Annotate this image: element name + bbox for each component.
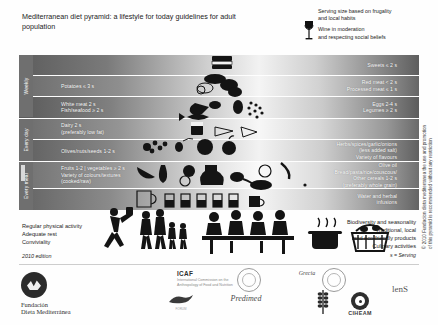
fundacion-dieta-mediterranea-icon [21, 272, 47, 298]
band-fruitveg-right: Olive oil Bread/pasta/rice/couscous/ Oth… [334, 162, 397, 188]
frequency-tabs: Weekly Every day Every meal [19, 55, 33, 210]
serving-key: s = Serving [390, 252, 416, 258]
band-meat: Potatoes ≤ 3 s Red meat < 2 s Processed … [19, 76, 419, 96]
edition-label: 2010 edition [22, 253, 51, 259]
band-protein-left: White meat 2 s Fish/seafood ≥ 2 s [61, 101, 103, 114]
band-protein-right: Eggs 2-4 s Legumes ≥ 2 s [363, 101, 397, 114]
forum-logo: FORUM [159, 294, 203, 311]
band-protein: White meat 2 s Fish/seafood ≥ 2 s Eggs 2… [19, 97, 419, 118]
footer-divider [19, 264, 419, 265]
band-olives-right: Herbs/spices/garlic/onions (less added s… [336, 141, 397, 161]
band-fruit-vegetables: Fruits 1-2 | vegetables ≥ 2 s Variety of… [19, 162, 419, 188]
copyright-text: © 2010 Fundacion dieta mediterranea the … [422, 61, 434, 249]
seal-logo-1 [234, 268, 264, 292]
wheat-logo [307, 290, 339, 314]
foundation-name: Fundación Dieta Mediterránea [21, 301, 71, 316]
predimed-wordmark: Predimed [215, 294, 277, 303]
band-fruitveg-left: Fruits 1-2 | vegetables ≥ 2 s Variety of… [61, 165, 125, 185]
band-olives: Olives/nuts/seeds 1-2 s Herbs/spices/gar… [19, 140, 419, 161]
wine-glass-icon [303, 20, 315, 42]
frequency-tick-marker [21, 165, 25, 181]
band-meat-right: Red meat < 2 s Processed meat ≤ 1 s [347, 79, 397, 92]
forum-label: FORUM [159, 307, 203, 311]
lifestyle-advice-left: Regular physical activity Adequate rest … [22, 222, 172, 246]
band-olives-left: Olives/nuts/seeds 1-2 s [61, 147, 115, 154]
band-sweets: Sweets ≤ 2 s [19, 55, 419, 75]
page-title: Mediterranean diet pyramid: a lifestyle … [22, 12, 252, 32]
seal-logo-2 [319, 268, 349, 292]
pyramid-bands: Sweets ≤ 2 s Potatoes ≤ 3 s Red meat < 2… [19, 55, 419, 210]
frequency-tab-weekly-label: Weekly [24, 78, 29, 95]
predimed-logo: Predimed [215, 294, 277, 303]
copyright-notice: © 2010 Fundacion dieta mediterranea the … [420, 60, 436, 250]
serving-size-note: Serving size based on frugality and loca… [318, 8, 430, 22]
frequency-tab-weekly: Weekly [19, 55, 33, 117]
mediterranean-diet-pyramid-poster: Mediterranean diet pyramid: a lifestyle … [0, 0, 438, 325]
wheat-icon [316, 290, 330, 314]
band-sweets-right: Sweets ≤ 2 s [367, 62, 397, 69]
lifestyle-advice-right: Biodiversity and seasonality Traditional… [266, 218, 416, 250]
ciheam-label: CIHEAM [337, 310, 383, 316]
ciheam-icon [351, 292, 369, 310]
band-dairy: Dairy 2 s (preferably low fat) [19, 119, 419, 139]
wine-moderation-note: Wine in moderation and respecting social… [318, 26, 430, 40]
band-dairy-left: Dairy 2 s (preferably low fat) [61, 122, 104, 135]
dove-icon [168, 294, 194, 307]
lens-logo: lenS [383, 284, 417, 294]
ciheam-logo: CIHEAM [337, 292, 383, 316]
lens-wordmark: lenS [383, 284, 417, 294]
band-meat-left: Potatoes ≤ 3 s [61, 83, 94, 90]
top-notes: Serving size based on frugality and loca… [318, 8, 430, 45]
frequency-tab-every-day-label: Every day [24, 128, 29, 151]
institutional-seal-icon [237, 268, 261, 292]
frequency-tab-every-day: Every day [19, 119, 33, 161]
sponsor-logos: Fundación Dieta Mediterránea ICAF Intern… [19, 268, 419, 318]
hkp-seal-icon [322, 268, 346, 292]
